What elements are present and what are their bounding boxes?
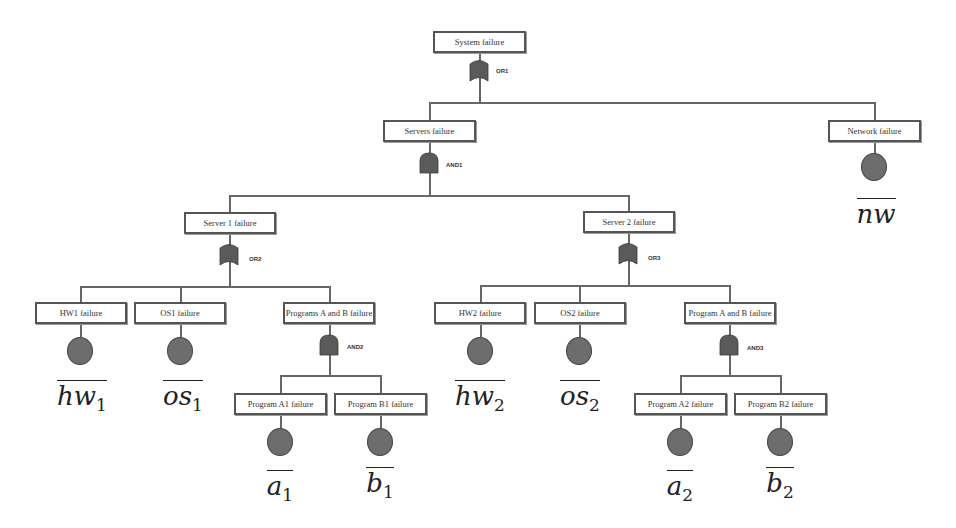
node-label: Program A1 failure <box>248 399 314 409</box>
or-gate-icon <box>469 60 489 82</box>
node-program-a2-failure[interactable]: Program A2 failure <box>634 393 727 415</box>
connector <box>780 375 782 393</box>
connector <box>780 414 782 428</box>
basic-event-circle-icon[interactable] <box>667 428 693 456</box>
node-program-ab-failure-2[interactable]: Program A and B failure <box>684 302 776 324</box>
node-program-a1-failure[interactable]: Program A1 failure <box>234 393 327 415</box>
symbol-b2: b2 <box>755 467 805 501</box>
node-label: HW2 failure <box>459 308 502 318</box>
gate-label: OR1 <box>496 68 508 74</box>
node-hw2-failure[interactable]: HW2 failure <box>434 302 526 324</box>
and-gate-icon <box>419 152 439 174</box>
basic-event-circle-icon[interactable] <box>861 153 887 181</box>
node-label: Program A and B failure <box>688 308 771 318</box>
node-hw1-failure[interactable]: HW1 failure <box>35 302 127 324</box>
connector <box>874 141 876 153</box>
connector <box>480 285 730 287</box>
symbol-hw1: hw1 <box>42 380 122 414</box>
node-program-b1-failure[interactable]: Program B1 failure <box>334 393 427 415</box>
node-label: HW1 failure <box>60 308 103 318</box>
connector <box>180 323 182 337</box>
basic-event-circle-icon[interactable] <box>767 428 793 456</box>
node-label: Program A2 failure <box>648 399 714 409</box>
connector <box>680 375 781 377</box>
connector <box>280 375 282 393</box>
node-label: Server 1 failure <box>204 218 257 228</box>
node-label: Program B2 failure <box>748 399 814 409</box>
symbol-b1: b1 <box>355 467 405 501</box>
symbol-a2: a2 <box>655 470 705 504</box>
connector <box>329 286 331 302</box>
symbol-a1: a1 <box>255 470 305 504</box>
node-label: Network failure <box>847 126 901 136</box>
node-label: Programs A and B failure <box>286 308 372 318</box>
connector <box>680 375 682 393</box>
node-server2-failure[interactable]: Server 2 failure <box>583 211 675 233</box>
gate-label: OR2 <box>249 256 261 262</box>
and-gate-icon <box>319 334 339 356</box>
connector <box>680 414 682 428</box>
node-server1-failure[interactable]: Server 1 failure <box>184 212 276 234</box>
node-system-failure[interactable]: System failure <box>433 31 526 53</box>
node-programs-ab-failure-1[interactable]: Programs A and B failure <box>283 302 375 324</box>
connector <box>280 414 282 428</box>
connector <box>480 323 482 337</box>
node-os1-failure[interactable]: OS1 failure <box>134 302 226 324</box>
gate-label: AND3 <box>747 345 763 351</box>
node-label: Server 2 failure <box>603 217 656 227</box>
basic-event-circle-icon[interactable] <box>467 337 493 365</box>
basic-event-circle-icon[interactable] <box>267 428 293 456</box>
node-program-b2-failure[interactable]: Program B2 failure <box>734 393 827 415</box>
connector <box>579 323 581 337</box>
basic-event-circle-icon[interactable] <box>367 428 393 456</box>
node-os2-failure[interactable]: OS2 failure <box>534 302 626 324</box>
connector <box>874 102 876 120</box>
or-gate-icon <box>219 244 239 266</box>
node-label: OS1 failure <box>160 308 199 318</box>
connector <box>180 286 182 302</box>
basic-event-circle-icon[interactable] <box>566 337 592 365</box>
node-label: System failure <box>455 37 504 47</box>
connector <box>628 195 630 212</box>
and-gate-icon <box>719 334 739 356</box>
connector <box>80 323 82 337</box>
gate-label: AND1 <box>446 162 462 168</box>
connector <box>429 102 431 120</box>
node-servers-failure[interactable]: Servers failure <box>383 120 476 142</box>
fault-tree-diagram: System failure Servers failure Network f… <box>0 0 956 528</box>
symbol-nw: nw <box>846 198 906 227</box>
connector <box>80 286 82 302</box>
connector <box>380 375 382 393</box>
gate-label: AND2 <box>347 344 363 350</box>
symbol-os1: os1 <box>148 380 218 414</box>
basic-event-circle-icon[interactable] <box>167 337 193 365</box>
connector <box>80 286 330 288</box>
symbol-hw2: hw2 <box>440 380 520 414</box>
node-label: OS2 failure <box>560 308 599 318</box>
connector <box>280 375 381 377</box>
symbol-os2: os2 <box>545 380 615 414</box>
connector <box>229 195 231 212</box>
node-label: Servers failure <box>405 126 455 136</box>
connector <box>380 414 382 428</box>
connector <box>480 285 482 302</box>
node-label: Program B1 failure <box>348 399 414 409</box>
basic-event-circle-icon[interactable] <box>67 337 93 365</box>
connector <box>579 285 581 302</box>
node-network-failure[interactable]: Network failure <box>828 120 921 142</box>
connector <box>229 195 629 197</box>
connector <box>429 102 875 104</box>
connector <box>729 285 731 302</box>
or-gate-icon <box>618 243 638 265</box>
gate-label: OR3 <box>648 255 660 261</box>
